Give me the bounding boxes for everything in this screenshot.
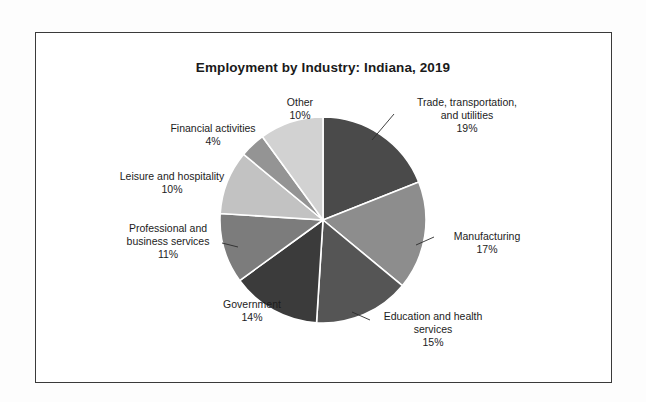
pie-label-manufacturing: Manufacturing 17% [432,230,542,256]
chart-title: Employment by Industry: Indiana, 2019 [0,60,646,75]
pie-label-professional: Professional and business services 11% [112,222,224,262]
pie-label-financial: Financial activities 4% [152,122,274,148]
pie-label-leisure: Leisure and hospitality 10% [108,170,236,196]
pie-label-education: Education and health services 15% [368,310,498,350]
pie-label-other: Other 10% [240,96,360,122]
pie-label-government: Government 14% [198,298,306,324]
pie-label-trade: Trade, transportation, and utilities 19% [392,96,542,136]
chart-page: Employment by Industry: Indiana, 2019 Ot… [0,0,646,402]
